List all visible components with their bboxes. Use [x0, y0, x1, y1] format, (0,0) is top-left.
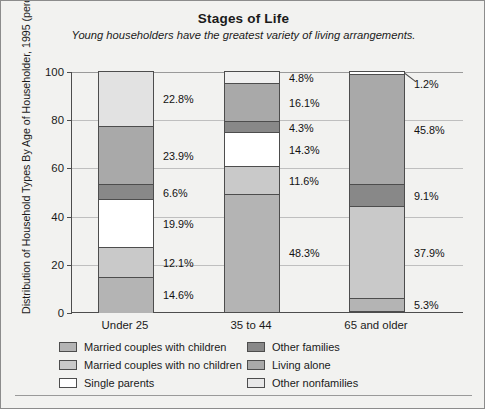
- segment-value-label: 45.8%: [414, 124, 445, 136]
- bar-segment[interactable]: [350, 75, 404, 185]
- segment-value-label: 9.1%: [414, 190, 439, 202]
- bar-segment[interactable]: [99, 185, 153, 201]
- legend-item[interactable]: Living alone: [247, 359, 331, 371]
- x-axis-category-label: 35 to 44: [230, 319, 271, 331]
- bar-segment[interactable]: [99, 200, 153, 248]
- bar-segment[interactable]: [225, 195, 279, 311]
- legend-item-label: Single parents: [84, 377, 154, 389]
- y-axis-tick-label: 80: [51, 114, 64, 126]
- y-axis-title: Distribution of Household Types By Age o…: [19, 64, 33, 314]
- y-axis-tick-label: 20: [51, 259, 64, 271]
- y-axis-tick: [67, 168, 72, 169]
- segment-value-label: 48.3%: [289, 247, 320, 259]
- bar-segment[interactable]: [99, 127, 153, 185]
- legend-item-label: Living alone: [272, 359, 331, 371]
- segment-value-label: 1.2%: [414, 78, 439, 90]
- segment-value-label: 37.9%: [414, 247, 445, 259]
- segment-value-label: 14.3%: [289, 144, 320, 156]
- segment-value-label: 16.1%: [289, 97, 320, 109]
- legend-item-label: Other nonfamilies: [272, 377, 358, 389]
- bar-segment[interactable]: [225, 167, 279, 195]
- bar-under-25[interactable]: [98, 71, 154, 312]
- legend-item[interactable]: Other nonfamilies: [247, 377, 358, 389]
- legend-item[interactable]: Married couples with children: [59, 341, 226, 353]
- segment-value-label: 23.9%: [163, 150, 194, 162]
- legend-swatch-icon: [247, 378, 265, 388]
- title-block: Stages of Life Young householders have t…: [1, 11, 485, 43]
- y-axis-tick-label: 0: [58, 307, 64, 319]
- bar-segment[interactable]: [99, 72, 153, 127]
- segment-value-label: 22.8%: [163, 93, 194, 105]
- y-axis-tick: [67, 120, 72, 121]
- bar-segment[interactable]: [350, 185, 404, 207]
- bar-segment[interactable]: [225, 84, 279, 123]
- legend-item[interactable]: Other families: [247, 341, 340, 353]
- legend-item[interactable]: Single parents: [59, 377, 154, 389]
- y-axis-tick-label: 100: [45, 66, 64, 78]
- bar-segment[interactable]: [350, 299, 404, 312]
- segment-value-label: 6.6%: [163, 187, 188, 199]
- y-axis-tick: [67, 313, 72, 314]
- segment-value-label: 11.6%: [289, 175, 319, 187]
- bar-segment[interactable]: [99, 278, 153, 313]
- x-axis-category-label: 65 and older: [344, 319, 407, 331]
- segment-value-label: 4.3%: [289, 122, 314, 134]
- legend-swatch-icon: [59, 342, 77, 352]
- legend-separator: [15, 395, 472, 396]
- y-axis-tick: [67, 265, 72, 266]
- y-axis-tick: [67, 72, 72, 73]
- segment-value-label: 5.3%: [414, 299, 439, 311]
- bar-segment[interactable]: [225, 122, 279, 132]
- y-axis-tick: [67, 217, 72, 218]
- legend-item-label: Married couples with no children: [84, 359, 242, 371]
- segment-value-label: 4.8%: [289, 72, 314, 84]
- bar-segment[interactable]: [350, 207, 404, 298]
- legend-swatch-icon: [247, 360, 265, 370]
- bar-35-to-44[interactable]: [224, 71, 280, 312]
- legend-item-label: Married couples with children: [84, 341, 226, 353]
- y-axis-tick-label: 60: [51, 162, 64, 174]
- y-axis-title-wrap: Distribution of Household Types By Age o…: [9, 61, 43, 316]
- legend-item-label: Other families: [272, 341, 340, 353]
- x-axis-category-label: Under 25: [102, 319, 149, 331]
- bar-segment[interactable]: [225, 133, 279, 167]
- legend-swatch-icon: [247, 342, 265, 352]
- bar-65-and-older[interactable]: [349, 71, 405, 312]
- chart-subtitle: Young householders have the greatest var…: [1, 28, 485, 43]
- chart-legend: Married couples with childrenMarried cou…: [15, 339, 472, 395]
- bar-segment[interactable]: [225, 72, 279, 84]
- stacked-bar-chart-figure: Stages of Life Young householders have t…: [0, 0, 485, 409]
- plot-area: 02040608010022.8%23.9%6.6%19.9%12.1%14.6…: [71, 72, 463, 313]
- legend-swatch-icon: [59, 360, 77, 370]
- legend-swatch-icon: [59, 378, 77, 388]
- segment-value-label: 14.6%: [163, 289, 194, 301]
- bar-segment[interactable]: [99, 248, 153, 277]
- segment-value-label: 12.1%: [163, 257, 194, 269]
- legend-item[interactable]: Married couples with no children: [59, 359, 242, 371]
- segment-value-label: 19.9%: [163, 218, 194, 230]
- page-title: Stages of Life: [1, 11, 485, 27]
- y-axis-tick-label: 40: [51, 211, 64, 223]
